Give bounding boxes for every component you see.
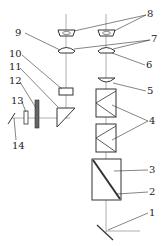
label-4: 4 xyxy=(149,116,155,126)
optical-diagram xyxy=(0,0,165,246)
mirror-1 xyxy=(97,225,113,240)
label-6: 6 xyxy=(146,60,152,70)
label-8: 8 xyxy=(147,9,153,19)
element-10 xyxy=(59,88,73,95)
lens-5 xyxy=(98,78,115,82)
beamsplitter-2-3 xyxy=(92,159,121,200)
grating-12 xyxy=(35,100,39,128)
label-5: 5 xyxy=(147,86,153,96)
prism-11 xyxy=(57,108,75,127)
label-13: 13 xyxy=(11,96,24,106)
label-2: 2 xyxy=(149,187,155,197)
lens-6 xyxy=(98,48,115,54)
label-1: 1 xyxy=(149,208,155,218)
label-3: 3 xyxy=(149,165,155,175)
label-14: 14 xyxy=(12,141,25,151)
label-12: 12 xyxy=(9,76,22,86)
label-7: 7 xyxy=(151,34,157,44)
element-13 xyxy=(24,111,28,124)
label-11: 11 xyxy=(9,62,22,72)
lens-8-left xyxy=(58,30,75,36)
lens-9 xyxy=(58,48,75,54)
lens-8-right xyxy=(98,30,115,36)
label-10: 10 xyxy=(9,49,22,59)
label-9: 9 xyxy=(15,28,21,38)
leader-lines xyxy=(14,15,150,230)
